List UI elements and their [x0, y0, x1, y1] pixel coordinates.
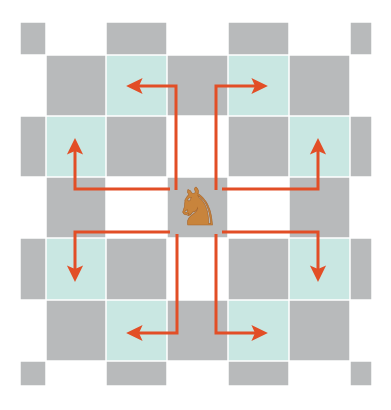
dark-square	[351, 362, 372, 386]
dark-square	[351, 23, 372, 55]
dark-square	[229, 239, 289, 300]
chess-board: ♞	[0, 0, 391, 410]
dark-square	[229, 117, 289, 177]
light-square	[229, 301, 289, 361]
dark-square	[290, 301, 350, 361]
dark-square	[351, 239, 372, 300]
dark-square	[107, 239, 167, 300]
knight-move-diagram: ♞	[0, 0, 391, 410]
knight-piece: ♞	[174, 177, 221, 237]
dark-square	[107, 362, 167, 386]
dark-square	[21, 117, 46, 177]
dark-square	[47, 56, 106, 116]
knight-icon: ♞	[174, 177, 221, 237]
dark-square	[21, 23, 46, 55]
dark-square	[107, 23, 167, 55]
dark-square	[47, 301, 106, 361]
dark-square	[21, 362, 46, 386]
dark-square	[107, 117, 167, 177]
dark-square	[229, 23, 289, 55]
dark-square	[21, 239, 46, 300]
dark-square	[229, 362, 289, 386]
light-square	[107, 301, 167, 361]
dark-square	[351, 117, 372, 177]
dark-square	[290, 56, 350, 116]
